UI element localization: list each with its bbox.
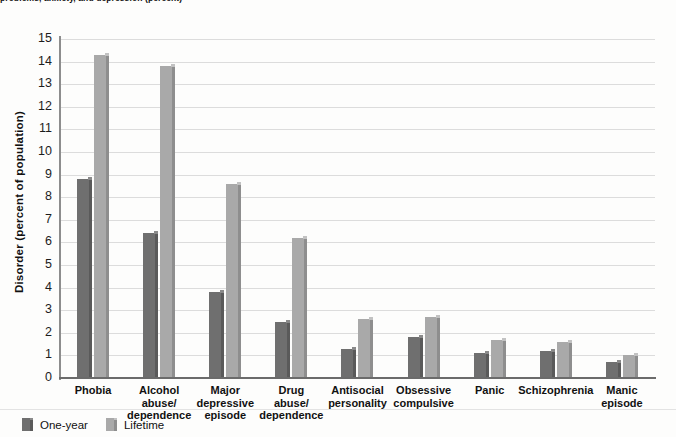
y-tick-0: 0 bbox=[18, 370, 52, 384]
legend-label: Lifetime bbox=[124, 419, 164, 431]
bar-lifetime bbox=[425, 317, 440, 378]
bar-side bbox=[370, 319, 373, 378]
bar-top bbox=[485, 351, 489, 354]
x-label-manic-episode: Manicepisode bbox=[583, 384, 661, 409]
y-axis-line bbox=[59, 36, 61, 380]
legend-label: One-year bbox=[40, 419, 88, 431]
x-axis-line bbox=[59, 377, 656, 379]
bar-group bbox=[391, 39, 457, 378]
bar-side bbox=[221, 292, 224, 378]
bar-side bbox=[552, 351, 555, 378]
bar-top bbox=[352, 347, 356, 350]
bar-side bbox=[635, 355, 638, 378]
bar-top bbox=[154, 231, 158, 234]
bar-top bbox=[171, 64, 175, 67]
bar-side bbox=[238, 184, 241, 378]
bar-lifetime bbox=[557, 342, 572, 378]
bar-group bbox=[192, 39, 258, 378]
bar-side bbox=[155, 233, 158, 378]
bar-top bbox=[220, 290, 224, 293]
bar-side bbox=[618, 362, 621, 378]
bar-lifetime bbox=[491, 340, 506, 378]
bar-lifetime bbox=[94, 55, 109, 378]
bar-top bbox=[502, 338, 506, 341]
bar-top bbox=[237, 182, 241, 185]
bar-group bbox=[60, 39, 126, 378]
bar-side bbox=[106, 55, 109, 378]
x-label-line: compulsive bbox=[385, 397, 463, 410]
bar-one-year bbox=[143, 233, 158, 378]
y-tick-15: 15 bbox=[18, 31, 52, 45]
bar-side bbox=[89, 179, 92, 378]
legend-one-year[interactable]: One-year bbox=[22, 418, 88, 431]
legend-divider bbox=[0, 409, 676, 410]
x-label-line: dependence bbox=[252, 409, 330, 422]
bar-top bbox=[105, 53, 109, 56]
bar-one-year bbox=[540, 351, 555, 378]
bar-side bbox=[437, 317, 440, 378]
bar-top bbox=[88, 177, 92, 180]
bar-one-year bbox=[474, 353, 489, 378]
bar-chart-figure: 1514131211109876543210 Disorder (percent… bbox=[0, 0, 676, 437]
bar-group bbox=[523, 39, 589, 378]
bar-top bbox=[303, 236, 307, 239]
x-label-line: episode bbox=[583, 397, 661, 410]
bar-side bbox=[503, 340, 506, 378]
bar-one-year bbox=[606, 362, 621, 378]
legend-swatch-icon bbox=[22, 418, 33, 431]
bar-group bbox=[457, 39, 523, 378]
bar-lifetime bbox=[292, 238, 307, 378]
bar-lifetime bbox=[358, 319, 373, 378]
bar-lifetime bbox=[226, 184, 241, 378]
bar-top bbox=[634, 353, 638, 356]
legend-lifetime[interactable]: Lifetime bbox=[106, 418, 164, 431]
bar-one-year bbox=[341, 349, 356, 378]
chart-legend: One-yearLifetime bbox=[22, 418, 164, 431]
y-axis-title: Disorder (percent of population) bbox=[13, 52, 25, 352]
bar-top bbox=[617, 360, 621, 363]
bar-top bbox=[419, 335, 423, 338]
bar-one-year bbox=[77, 179, 92, 378]
bar-side bbox=[569, 342, 572, 378]
bar-group bbox=[126, 39, 192, 378]
bar-one-year bbox=[275, 322, 290, 379]
legend-swatch-icon bbox=[106, 418, 117, 431]
bar-side bbox=[304, 238, 307, 378]
bar-lifetime bbox=[623, 355, 638, 378]
bar-top bbox=[369, 317, 373, 320]
bar-one-year bbox=[408, 337, 423, 378]
bar-side bbox=[353, 349, 356, 378]
bar-one-year bbox=[209, 292, 224, 378]
bar-group bbox=[324, 39, 390, 378]
bar-lifetime bbox=[160, 66, 175, 378]
plot-area bbox=[60, 39, 655, 378]
bar-top bbox=[436, 315, 440, 318]
bar-top bbox=[568, 340, 572, 343]
bar-side bbox=[486, 353, 489, 378]
bar-side bbox=[420, 337, 423, 378]
bar-group bbox=[258, 39, 324, 378]
bar-group bbox=[589, 39, 655, 378]
bar-side bbox=[287, 322, 290, 379]
bar-side bbox=[172, 66, 175, 378]
bar-top bbox=[551, 349, 555, 352]
bar-top bbox=[286, 320, 290, 323]
x-label-line: Manic bbox=[583, 384, 661, 397]
